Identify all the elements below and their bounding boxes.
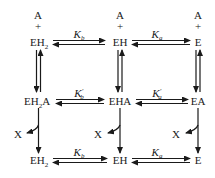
row-1: A + A + A + EH2 EH E Kb Ka [30, 9, 202, 51]
plus-sign-3: + [195, 20, 201, 32]
product-x-1: X [14, 128, 22, 140]
vertical-equilibrium-col-3 [196, 50, 200, 92]
species-eh2a: EH2A [24, 95, 50, 110]
product-x-2: X [94, 128, 102, 140]
species-eh-bottom: EH [113, 154, 128, 166]
species-eh2-top: EH2 [30, 36, 49, 51]
species-eh-top: EH [113, 36, 128, 48]
species-e-top: E [195, 36, 202, 48]
plus-sign-2: + [117, 20, 123, 32]
equilibrium-arrow-eh-e-top [132, 41, 190, 45]
species-ea: EA [191, 95, 206, 107]
species-eh2-bottom: EH2 [30, 154, 49, 169]
plus-sign-1: + [35, 20, 41, 32]
equilibrium-arrow-eh2-eh-top [53, 41, 105, 45]
species-e-bottom: E [195, 154, 202, 166]
equilibrium-arrow-eh-e-bottom [132, 159, 190, 163]
kinetic-scheme-diagram: A + A + A + EH2 EH E Kb Ka EH2A [0, 0, 215, 178]
equilibrium-arrow-eh2a-eha [56, 100, 104, 104]
equilibrium-arrow-eh2-eh-bottom [53, 159, 107, 163]
vertical-equilibrium-col-1 [37, 50, 41, 92]
irreversible-arrow-col-3: X [172, 108, 198, 153]
irreversible-arrow-col-2: X [94, 108, 120, 153]
species-eha: EHA [109, 95, 132, 107]
row-2: EH2A EHA EA K′b K′a [24, 87, 205, 110]
row-3: EH2 EH E Kb Ka [30, 146, 202, 169]
vertical-equilibrium-col-2 [118, 50, 122, 92]
irreversible-arrow-col-1: X [14, 108, 38, 153]
equilibrium-arrow-eha-ea [136, 100, 188, 104]
product-x-3: X [172, 128, 180, 140]
